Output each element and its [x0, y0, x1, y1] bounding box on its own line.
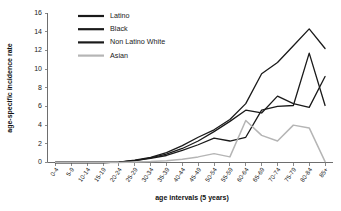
y-axis-ticks: 0246810121416 [34, 9, 47, 166]
legend-label-black: Black [110, 24, 128, 33]
x-tick-label: 75-79 [283, 166, 298, 183]
legend-label-latino: Latino [110, 11, 130, 20]
x-tick-label: 25-29 [124, 166, 139, 183]
x-tick-label: 0-4 [49, 166, 60, 178]
x-axis-title: age intervals (5 years) [155, 194, 229, 202]
series-line-latino [55, 29, 325, 163]
x-tick-label: 50-54 [203, 166, 218, 183]
y-tick-label: 2 [38, 140, 42, 147]
y-tick-label: 14 [34, 28, 42, 35]
line-chart: 0246810121416 0-45-910-1415-1920-2425-29… [0, 0, 341, 211]
x-axis-ticks: 0-45-910-1415-1920-2425-2930-3435-3940-4… [49, 163, 330, 184]
legend-label-asian: Asian [110, 51, 128, 60]
y-tick-label: 12 [34, 46, 42, 53]
x-tick-label: 35-39 [156, 166, 171, 183]
x-tick-label: 45-49 [187, 166, 202, 183]
y-tick-label: 4 [38, 121, 42, 128]
x-tick-label: 85+ [317, 166, 329, 179]
legend-label-non-latino-white: Non Latino White [110, 37, 165, 46]
y-tick-label: 0 [38, 158, 42, 165]
x-tick-label: 30-34 [140, 166, 155, 183]
x-tick-label: 65-69 [251, 166, 266, 183]
x-tick-label: 80-84 [298, 166, 313, 183]
y-axis-title: age-specific incidence rate [6, 43, 14, 133]
series-line-non-latino-white [55, 77, 325, 163]
series-line-black [55, 53, 325, 162]
x-tick-label: 5-9 [64, 166, 75, 178]
x-tick-label: 15-19 [92, 166, 107, 183]
x-tick-label: 20-24 [108, 166, 123, 183]
y-tick-label: 6 [38, 102, 42, 109]
x-tick-label: 10-14 [76, 166, 91, 183]
series-lines [55, 29, 325, 163]
y-tick-label: 16 [34, 9, 42, 16]
x-tick-label: 60-64 [235, 166, 250, 183]
x-tick-label: 40-44 [172, 166, 187, 183]
x-tick-label: 55-59 [219, 166, 234, 183]
chart-legend: LatinoBlackNon Latino WhiteAsian [78, 11, 165, 60]
y-tick-label: 10 [34, 65, 42, 72]
y-tick-label: 8 [38, 84, 42, 91]
chart-figure: 0246810121416 0-45-910-1415-1920-2425-29… [0, 0, 341, 211]
x-tick-label: 70-74 [267, 166, 282, 183]
